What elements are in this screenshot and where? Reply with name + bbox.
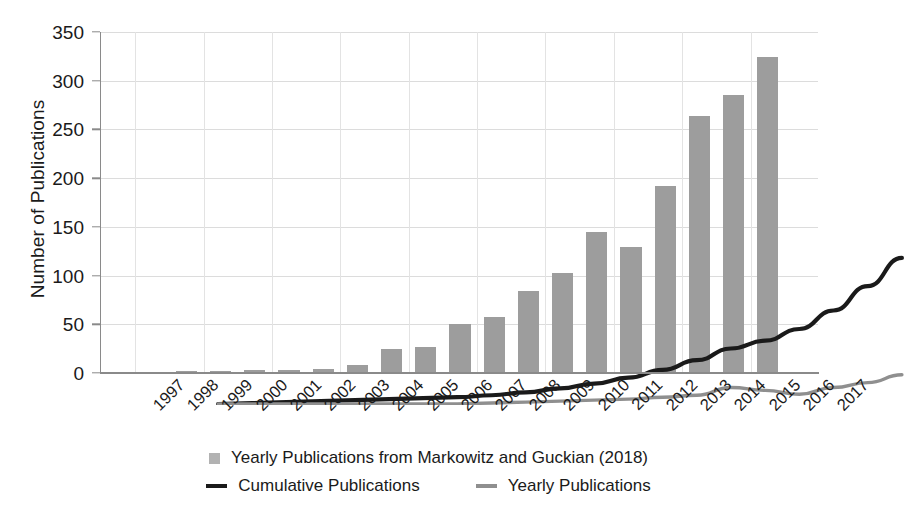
x-tick-label-2000: 2000 bbox=[252, 376, 290, 414]
y-tick-label: 300 bbox=[52, 71, 84, 90]
y-tick-label: 50 bbox=[63, 315, 84, 334]
y-tick-label: 350 bbox=[52, 23, 84, 42]
x-tick-label-2015: 2015 bbox=[765, 376, 803, 414]
y-tick-label: 200 bbox=[52, 169, 84, 188]
y-tick-mark bbox=[92, 324, 100, 325]
y-axis-tick-labels: 050100150200250300350 bbox=[0, 32, 92, 373]
legend-label-cumulative: Cumulative Publications bbox=[238, 476, 419, 496]
legend-item-bars: Yearly Publications from Markowitz and G… bbox=[209, 448, 648, 468]
y-tick-label: 250 bbox=[52, 120, 84, 139]
x-tick-label-2005: 2005 bbox=[423, 376, 461, 414]
legend-swatch-bars-icon bbox=[209, 453, 220, 464]
x-tick-label-2008: 2008 bbox=[526, 376, 564, 414]
legend-swatch-yearly-icon bbox=[476, 484, 497, 488]
legend-item-yearly: Yearly Publications bbox=[476, 476, 651, 496]
y-tick-mark bbox=[92, 31, 100, 32]
x-tick-label-2007: 2007 bbox=[492, 376, 530, 414]
x-tick-label-2010: 2010 bbox=[594, 376, 632, 414]
x-axis-line bbox=[100, 372, 819, 374]
legend-row-bottom: Cumulative Publications Yearly Publicati… bbox=[0, 472, 857, 500]
legend-item-cumulative: Cumulative Publications bbox=[206, 476, 419, 496]
x-tick-label-1998: 1998 bbox=[184, 376, 222, 414]
vertical-gridline bbox=[135, 32, 136, 373]
legend-label-bars: Yearly Publications from Markowitz and G… bbox=[231, 448, 648, 468]
x-tick-label-2001: 2001 bbox=[287, 376, 325, 414]
x-tick-label-2013: 2013 bbox=[697, 376, 735, 414]
x-tick-label-2012: 2012 bbox=[663, 376, 701, 414]
x-tick-label-2006: 2006 bbox=[458, 376, 496, 414]
y-tick-mark bbox=[92, 226, 100, 227]
x-tick-label-2003: 2003 bbox=[355, 376, 393, 414]
x-tick-label-2009: 2009 bbox=[560, 376, 598, 414]
x-tick-label-1999: 1999 bbox=[218, 376, 256, 414]
y-tick-mark bbox=[92, 80, 100, 81]
y-tick-label: 150 bbox=[52, 217, 84, 236]
legend-swatch-cumulative-icon bbox=[206, 484, 227, 489]
legend-label-yearly: Yearly Publications bbox=[508, 476, 651, 496]
x-tick-label-2014: 2014 bbox=[731, 376, 769, 414]
line-series bbox=[201, 64, 908, 405]
y-tick-mark bbox=[92, 275, 100, 276]
x-tick-label-2002: 2002 bbox=[321, 376, 359, 414]
y-tick-mark bbox=[92, 129, 100, 130]
horizontal-gridline bbox=[101, 32, 818, 33]
y-tick-label: 0 bbox=[73, 364, 84, 383]
x-tick-label-2011: 2011 bbox=[628, 376, 665, 413]
x-tick-label-1997: 1997 bbox=[150, 376, 188, 414]
chart-legend: Yearly Publications from Markowitz and G… bbox=[0, 444, 857, 500]
y-tick-mark bbox=[92, 177, 100, 178]
x-tick-label-2004: 2004 bbox=[389, 376, 427, 414]
legend-row-top: Yearly Publications from Markowitz and G… bbox=[0, 444, 857, 472]
y-tick-mark bbox=[92, 372, 100, 373]
y-tick-label: 100 bbox=[52, 266, 84, 285]
x-axis-tick-labels: 1997199819992000200120022003200420052006… bbox=[100, 376, 818, 436]
plot-area bbox=[100, 32, 818, 373]
